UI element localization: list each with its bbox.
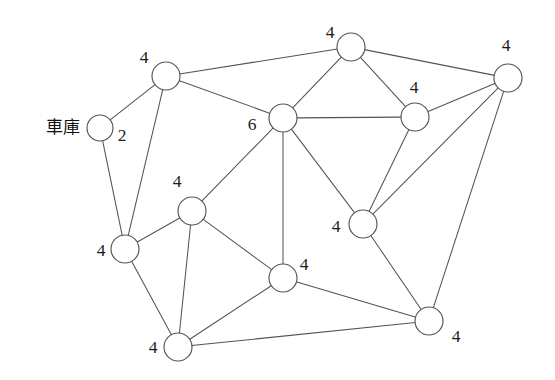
node-bottom-left-demand-label: 4 <box>149 337 158 357</box>
edge-mid-left-bottom-left <box>179 225 190 334</box>
edge-bottom-right-bottom-left <box>192 322 416 345</box>
edge-bottom-right-bottom-center <box>296 282 416 317</box>
node-top-left-demand-label: 4 <box>140 47 149 67</box>
node-left-lower[interactable] <box>111 235 139 263</box>
node-right-upper-demand-label: 4 <box>410 77 419 97</box>
node-top-demand-label: 4 <box>326 22 335 42</box>
node-center-demand-label: 6 <box>248 114 257 134</box>
edge-top-left-center <box>179 81 270 114</box>
node-right-mid[interactable] <box>349 210 377 238</box>
edge-top-left-left-lower <box>128 89 163 236</box>
node-top-left[interactable] <box>152 62 180 90</box>
edge-center-right-upper <box>297 117 402 118</box>
node-bottom-right-demand-label: 4 <box>452 326 461 346</box>
edge-layer <box>103 49 504 345</box>
edge-right-mid-bottom-right <box>371 235 422 310</box>
edge-top-right-upper <box>360 57 406 107</box>
edge-depot-left-lower <box>103 140 123 235</box>
edge-depot-top-left <box>110 84 155 120</box>
edge-top-right-right-upper <box>428 83 496 111</box>
node-depot-demand-label: 2 <box>118 125 127 145</box>
edge-top-center <box>292 57 341 108</box>
node-top[interactable] <box>337 33 365 61</box>
graph-svg: 244464444444車庫 <box>0 0 555 380</box>
edge-mid-left-left-lower <box>137 218 180 243</box>
label-layer: 244464444444車庫 <box>46 22 511 357</box>
edge-top-left-top <box>179 49 337 74</box>
edge-top-top-right <box>364 50 494 76</box>
graph-diagram-canvas: 244464444444車庫 <box>0 0 555 380</box>
node-bottom-left[interactable] <box>164 333 192 361</box>
node-bottom-center[interactable] <box>269 264 297 292</box>
edge-left-lower-bottom-left <box>131 261 171 335</box>
depot-text-label: 車庫 <box>46 117 81 137</box>
node-depot[interactable] <box>87 115 113 141</box>
node-right-mid-demand-label: 4 <box>332 216 341 236</box>
node-bottom-center-demand-label: 4 <box>300 254 309 274</box>
edge-right-upper-right-mid <box>369 129 409 212</box>
node-right-upper[interactable] <box>401 103 429 131</box>
edge-top-right-bottom-right <box>433 91 504 308</box>
node-top-right-demand-label: 4 <box>502 35 511 55</box>
edge-center-right-mid <box>291 129 355 213</box>
edge-mid-left-bottom-center <box>203 219 272 270</box>
edge-top-right-right-mid <box>373 88 499 215</box>
node-bottom-right[interactable] <box>415 307 443 335</box>
node-left-lower-demand-label: 4 <box>97 240 106 260</box>
edge-center-mid-left <box>202 128 274 202</box>
edge-bottom-center-bottom-left <box>189 285 271 339</box>
node-mid-left[interactable] <box>178 197 206 225</box>
node-top-right[interactable] <box>494 64 522 92</box>
node-mid-left-demand-label: 4 <box>173 171 182 191</box>
node-layer <box>87 33 522 361</box>
node-center[interactable] <box>269 104 297 132</box>
